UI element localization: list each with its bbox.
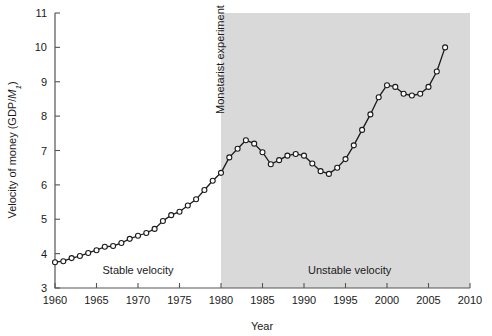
data-point-marker	[418, 91, 423, 96]
data-point-marker	[401, 91, 406, 96]
data-point-marker	[385, 83, 390, 88]
x-axis-title: Year	[251, 320, 274, 332]
x-tick-label: 1975	[167, 294, 191, 306]
data-point-marker	[69, 256, 74, 261]
data-point-marker	[285, 153, 290, 158]
data-point-marker	[368, 112, 373, 117]
data-point-marker	[260, 150, 265, 155]
data-point-marker	[243, 138, 248, 143]
data-point-marker	[185, 203, 190, 208]
x-tick-label: 1965	[84, 294, 108, 306]
y-tick-label: 4	[41, 248, 47, 260]
data-point-marker	[152, 226, 157, 231]
data-point-marker	[310, 161, 315, 166]
data-point-marker	[252, 141, 257, 146]
x-tick-label: 1990	[292, 294, 316, 306]
data-point-marker	[94, 248, 99, 253]
data-point-marker	[434, 69, 439, 74]
y-tick-label: 3	[41, 282, 47, 294]
data-point-marker	[202, 188, 207, 193]
data-point-marker	[235, 146, 240, 151]
y-tick-label: 5	[41, 213, 47, 225]
monetarist-experiment-shaded-region	[221, 13, 470, 288]
data-point-marker	[351, 143, 356, 148]
data-point-marker	[160, 218, 165, 223]
x-tick-label: 1985	[250, 294, 274, 306]
data-point-marker	[443, 45, 448, 50]
y-tick-label: 9	[41, 76, 47, 88]
region-annotation-label: Stable velocity	[103, 264, 174, 276]
x-tick-label: 2010	[458, 294, 482, 306]
data-point-marker	[194, 197, 199, 202]
y-tick-label: 11	[36, 7, 47, 19]
data-point-marker	[343, 157, 348, 162]
x-tick-label: 1960	[43, 294, 67, 306]
x-tick-label: 1995	[333, 294, 357, 306]
data-point-marker	[136, 233, 141, 238]
x-tick-label: 1970	[126, 294, 150, 306]
x-tick-label: 2000	[375, 294, 399, 306]
data-point-marker	[102, 244, 107, 249]
y-tick-label: 7	[41, 145, 47, 157]
data-point-marker	[360, 127, 365, 132]
y-tick-label: 6	[41, 179, 47, 191]
data-point-marker	[53, 260, 58, 265]
data-point-marker	[144, 231, 149, 236]
data-point-marker	[77, 254, 82, 259]
region-annotation-label: Unstable velocity	[308, 264, 392, 276]
data-point-marker	[393, 84, 398, 89]
data-point-marker	[169, 213, 174, 218]
data-point-marker	[86, 250, 91, 255]
x-tick-label: 2005	[416, 294, 440, 306]
data-point-marker	[326, 171, 331, 176]
data-point-marker	[111, 244, 116, 249]
data-point-marker	[376, 95, 381, 100]
data-point-marker	[277, 158, 282, 163]
data-point-marker	[426, 84, 431, 89]
data-point-marker	[318, 169, 323, 174]
data-point-marker	[409, 93, 414, 98]
chart-figure: 34567891011 1960196519701975198019851990…	[0, 0, 492, 336]
data-point-marker	[302, 153, 307, 158]
data-point-marker	[268, 162, 273, 167]
monetarist-experiment-label: Monetarist experiment	[214, 5, 226, 114]
y-tick-label: 8	[41, 110, 47, 122]
y-tick-label: 10	[35, 41, 47, 53]
data-point-marker	[219, 170, 224, 175]
velocity-of-money-line-chart: 34567891011 1960196519701975198019851990…	[0, 0, 492, 336]
data-point-marker	[61, 259, 66, 264]
data-point-marker	[210, 178, 215, 183]
x-tick-label: 1980	[209, 294, 233, 306]
data-point-marker	[227, 155, 232, 160]
data-point-marker	[119, 240, 124, 245]
data-point-marker	[335, 165, 340, 170]
shaded-area-rect	[221, 13, 470, 288]
data-point-marker	[127, 236, 132, 241]
data-point-marker	[293, 151, 298, 156]
data-point-marker	[177, 209, 182, 214]
